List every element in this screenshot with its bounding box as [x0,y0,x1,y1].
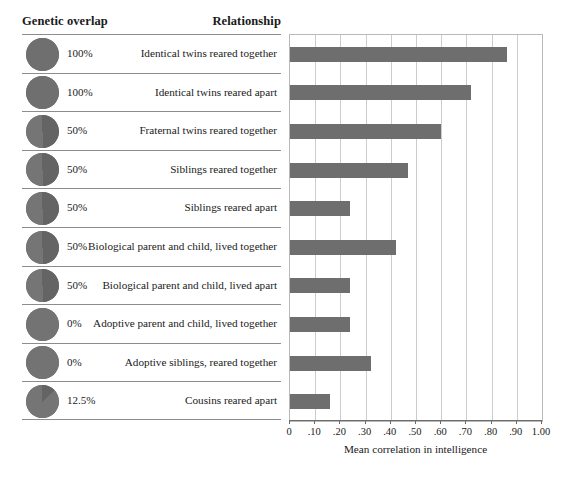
x-tick [541,420,542,424]
pie-slice [26,385,59,418]
relationship-label: Adoptive parent and child, lived togethe… [93,317,277,329]
table-row: 100%Identical twins reared apart [22,73,281,112]
bar [290,85,471,100]
genetic-overlap-value: 0% [67,356,82,368]
x-axis-label: Mean correlation in intelligence [289,443,542,455]
genetic-overlap-value: 50% [67,240,87,252]
bar [290,163,408,178]
table-row: 50%Siblings reared together [22,150,281,189]
relationship-label: Identical twins reared apart [155,86,277,98]
x-tick [289,420,290,424]
gridline [492,35,493,421]
pie-slice [26,153,59,186]
x-tick [339,420,340,424]
bar [290,201,350,216]
table-row: 0%Adoptive parent and child, lived toget… [22,304,281,343]
pie-slice [26,76,59,109]
genetic-overlap-value: 0% [67,317,82,329]
table-row: 0%Adoptive siblings, reared together [22,343,281,382]
pie-slice [26,115,59,148]
x-tick [440,420,441,424]
header-relationship: Relationship [95,14,281,32]
x-tick [390,420,391,424]
pie-icon-100 [26,38,59,71]
pie-slice [26,231,59,264]
x-tick [314,420,315,424]
relationship-label: Adoptive siblings, reared together [125,356,277,368]
relationship-label: Siblings reared together [170,163,277,175]
bar [290,394,330,409]
table-row: 50%Siblings reared apart [22,188,281,227]
table-row: 50%Biological parent and child, lived to… [22,227,281,266]
table-row: 12.5%Cousins reared apart [22,381,281,420]
bar [290,278,350,293]
pie-icon-100 [26,76,59,109]
relationship-label: Biological parent and child, lived apart [102,279,277,291]
relationship-label: Identical twins reared together [141,47,277,59]
x-tick [465,420,466,424]
x-tick [491,420,492,424]
relationship-label: Cousins reared apart [185,394,277,406]
genetic-overlap-value: 12.5% [67,394,95,406]
pie-icon-50 [26,231,59,264]
pie-icon-0 [26,308,59,341]
genetic-overlap-value: 50% [67,279,87,291]
bar [290,356,371,371]
relationship-label: Biological parent and child, lived toget… [88,240,277,252]
pie-slice [26,192,59,225]
genetic-overlap-value: 100% [67,86,93,98]
x-tick [516,420,517,424]
genetic-overlap-value: 50% [67,124,87,136]
genetic-overlap-value: 100% [67,47,93,59]
pie-slice [26,346,59,379]
pie-icon-0 [26,346,59,379]
genetic-overlap-value: 50% [67,163,87,175]
table-row: 100%Identical twins reared together [22,34,281,73]
x-tick [415,420,416,424]
bar-chart-plot-area [289,34,543,422]
pie-icon-50 [26,269,59,302]
bar [290,47,507,62]
pie-slice [26,269,59,302]
bar [290,240,396,255]
x-tick [365,420,366,424]
x-tick-label: 1.00 [521,426,561,437]
pie-icon-50 [26,192,59,225]
bar [290,317,350,332]
pie-icon-50 [26,115,59,148]
pie-icon-12 [26,385,59,418]
relationship-label: Siblings reared apart [184,201,277,213]
table-row: 50%Fraternal twins reared together [22,111,281,150]
relationship-label: Fraternal twins reared together [139,124,277,136]
pie-icon-50 [26,153,59,186]
pie-slice [26,308,59,341]
relationship-table: 100%Identical twins reared together100%I… [22,34,281,420]
table-row: 50%Biological parent and child, lived ap… [22,266,281,305]
genetic-overlap-value: 50% [67,201,87,213]
bar [290,124,441,139]
gridline [517,35,518,421]
pie-slice [26,38,59,71]
genetic-overlap-correlation-figure: Genetic overlap Relationship 100%Identic… [0,0,565,477]
